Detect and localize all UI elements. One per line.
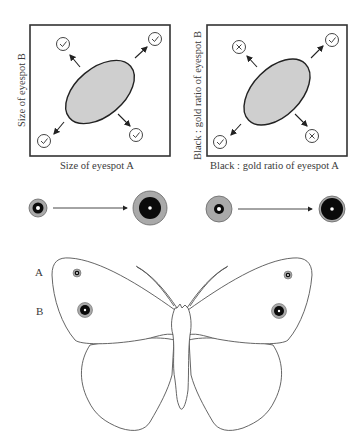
check-icon	[149, 33, 162, 46]
butterfly-drawing	[0, 230, 363, 448]
gold-eyespot-icon	[206, 196, 232, 222]
check-icon	[57, 38, 70, 51]
check-icon	[38, 135, 51, 148]
size-plot	[0, 0, 181, 175]
right-forewing	[188, 258, 312, 344]
left-eyespot-b	[78, 303, 93, 318]
ratio-plot	[181, 0, 363, 175]
left-hindwing	[81, 338, 174, 430]
panel-black-gold-ratio: Black : gold ratio of eyespot B Black : …	[181, 0, 363, 175]
check-icon	[130, 129, 143, 142]
check-icon	[214, 136, 227, 149]
cross-icon	[233, 41, 246, 54]
panel-eyespot-size: Size of eyespot B Size of eyespot A	[0, 0, 181, 175]
right-hindwing	[189, 338, 282, 430]
y-axis-label: Black : gold ratio of eyespot B	[192, 31, 203, 160]
left-forewing	[52, 258, 175, 344]
x-axis-label: Black : gold ratio of eyespot A	[210, 160, 339, 171]
right-eyespot-a	[284, 271, 292, 279]
black-eyespot-icon	[319, 196, 345, 222]
y-axis-label: Size of eyespot B	[16, 53, 27, 127]
small-eyespot-icon	[29, 199, 47, 217]
right-eyespot-b	[272, 304, 287, 319]
x-axis-label: Size of eyespot A	[60, 160, 134, 171]
check-icon	[326, 34, 339, 47]
left-eyespot-a	[73, 269, 81, 277]
cross-icon	[306, 130, 319, 143]
large-eyespot-icon	[133, 191, 167, 225]
label-eyespot-b: B	[36, 305, 43, 317]
label-eyespot-a: A	[35, 266, 43, 278]
butterfly-body	[172, 304, 192, 409]
